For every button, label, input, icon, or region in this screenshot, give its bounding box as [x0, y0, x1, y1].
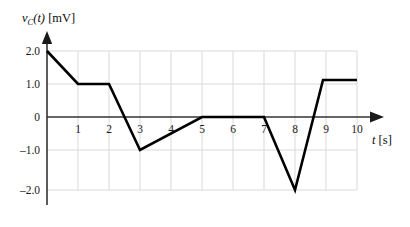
y-tick-labels: 2.0 1.0 0 –1.0 –2.0	[19, 45, 40, 196]
y-axis-unit-text: [mV]	[48, 11, 75, 25]
y-tick-label: 0	[34, 111, 40, 123]
x-tick-label: 10	[351, 123, 363, 135]
x-tick-label: 3	[137, 123, 143, 135]
x-tick-label: 9	[323, 123, 329, 135]
x-tick-label: 6	[230, 123, 236, 135]
x-tick-label: 8	[292, 123, 298, 135]
x-tick-label: 2	[106, 123, 112, 135]
x-tick-label: 5	[199, 123, 205, 135]
x-tick-label: 1	[75, 123, 81, 135]
y-tick-label: –1.0	[19, 144, 40, 156]
y-axis-title: vC(t) [mV]	[22, 11, 75, 27]
voltage-axis	[42, 31, 52, 205]
y-tick-label: –2.0	[19, 184, 40, 196]
chart-figure: 2.0 1.0 0 –1.0 –2.0 1 2 3 4 5 6 7 8 9 10…	[0, 0, 410, 227]
y-axis-arg: (t)	[33, 11, 45, 25]
x-axis-title: t [s]	[372, 133, 392, 147]
voltage-vs-time-plot: 2.0 1.0 0 –1.0 –2.0 1 2 3 4 5 6 7 8 9 10…	[0, 0, 410, 227]
y-tick-label: 1.0	[26, 78, 41, 90]
x-axis-unit-text: [s]	[379, 133, 392, 147]
grid-lines	[47, 51, 357, 190]
x-tick-labels: 1 2 3 4 5 6 7 8 9 10	[75, 123, 363, 135]
y-tick-label: 2.0	[26, 45, 41, 57]
